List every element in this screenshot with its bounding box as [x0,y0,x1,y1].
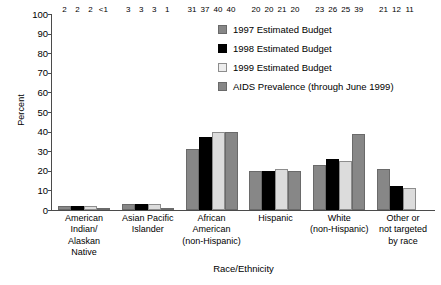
bar: 26 [326,159,339,210]
bar-value-label: 23 [315,5,324,14]
y-axis-tick-label: 100 [14,9,48,20]
x-axis-line [51,210,435,211]
bar: 3 [135,204,148,210]
y-axis-tick-mark [48,53,52,54]
y-axis-tick-mark [48,151,52,152]
y-axis-tick-label: 10 [14,185,48,196]
bar: 3 [148,204,161,210]
bar: 23 [313,165,326,210]
bar: 20 [262,171,275,210]
bar-value-label: 31 [188,5,197,14]
bar-value-label: 40 [227,5,236,14]
bar: 37 [199,137,212,210]
bar-value-label: 11 [405,5,413,14]
x-axis-category-label: AmericanIndian/AlaskanNative [52,213,116,258]
bar: 2 [58,206,71,210]
bar-value-label: 40 [214,5,223,14]
bar-value-label: 2 [75,5,79,14]
legend-label: 1999 Estimated Budget [233,62,332,73]
legend-label: AIDS Prevalence (through June 1999) [233,81,394,92]
bar-value-label: 20 [290,5,299,14]
bar: 11 [403,188,416,210]
x-axis-category-label-line: White [307,213,371,224]
x-axis-title: Race/Ethnicity [52,263,435,274]
y-axis-tick-mark [48,73,52,74]
y-axis-tick-label: 50 [14,107,48,118]
chart-legend: 1997 Estimated Budget1998 Estimated Budg… [218,20,436,96]
bar-value-label: 20 [264,5,273,14]
x-axis-category-label-line: Indian/ [52,224,116,235]
bar-value-label: 25 [341,5,350,14]
y-axis-tick-mark [48,210,52,211]
bar-value-label: 12 [392,5,401,14]
bar-value-label: 21 [277,5,286,14]
bar-value-label: <1 [99,5,108,14]
x-axis-category-label-line: Alaskan [52,236,116,247]
y-axis-tick-labels: 0102030405060708090100 [14,14,48,210]
bar-chart: Percent 0102030405060708090100 222<13331… [0,0,441,285]
x-axis-category-label-line: Native [52,247,116,258]
bar-value-label: 3 [152,5,156,14]
x-axis-category-label-line: Asian Pacific [116,213,180,224]
bar-value-label: 37 [201,5,210,14]
x-axis-category-label-line: African [180,213,244,224]
bar: 2 [71,206,84,210]
y-axis-tick-mark [48,14,52,15]
bar-value-label: 39 [354,5,363,14]
bar: 2 [84,206,97,210]
y-axis-tick-mark [48,34,52,35]
bar: 21 [377,169,390,210]
bar-slot: 3 [135,14,148,210]
x-axis-category-label-line: by race [371,236,435,247]
bar: 21 [275,169,288,210]
bar-value-label: 3 [126,5,130,14]
y-axis-tick-label: 80 [14,48,48,59]
bar-slot: 2 [58,14,71,210]
bar: 31 [186,149,199,210]
legend-label: 1997 Estimated Budget [233,24,332,35]
legend-item: 1998 Estimated Budget [218,39,436,58]
y-axis-tick-label: 30 [14,146,48,157]
x-axis-category-label-line: American [180,224,244,235]
bar-value-label: 21 [379,5,388,14]
bar-value-label: 3 [139,5,143,14]
legend-item: AIDS Prevalence (through June 1999) [218,77,436,96]
x-axis-category-label: Asian PacificIslander [116,213,180,236]
y-axis-tick-label: 0 [14,205,48,216]
bar-value-label: 2 [88,5,92,14]
bar: 20 [288,171,301,210]
bar-slot: 1 [161,14,174,210]
y-axis-tick-label: 20 [14,165,48,176]
bar: 39 [352,134,365,210]
bar: 40 [212,132,225,210]
legend-label: 1998 Estimated Budget [233,43,332,54]
legend-item: 1999 Estimated Budget [218,58,436,77]
legend-swatch-icon [218,82,227,91]
y-axis-tick-mark [48,112,52,113]
bar-value-label: 2 [62,5,66,14]
bar: 40 [225,132,238,210]
x-axis-category-label: Other ornot targetedby race [371,213,435,247]
x-axis-category-label-line: Other or [371,213,435,224]
x-axis-category-label: AfricanAmerican(non-Hispanic) [180,213,244,247]
x-axis-category-label-line: (non-Hispanic) [180,236,244,247]
bar: <1 [97,208,110,210]
bar-slot: <1 [97,14,110,210]
y-axis-tick-mark [48,92,52,93]
bar: 25 [339,161,352,210]
y-axis-tick-label: 90 [14,28,48,39]
y-axis-tick-mark [48,190,52,191]
legend-swatch-icon [218,44,227,53]
y-axis-tick-label: 70 [14,67,48,78]
legend-item: 1997 Estimated Budget [218,20,436,39]
legend-swatch-icon [218,63,227,72]
y-axis-tick-mark [48,171,52,172]
bar-slot: 3 [148,14,161,210]
legend-swatch-icon [218,25,227,34]
y-axis-tick-label: 40 [14,126,48,137]
bar: 20 [249,171,262,210]
bar-slot: 31 [186,14,199,210]
bar-value-label: 26 [328,5,337,14]
bar-value-label: 20 [251,5,260,14]
bar-slot: 2 [84,14,97,210]
